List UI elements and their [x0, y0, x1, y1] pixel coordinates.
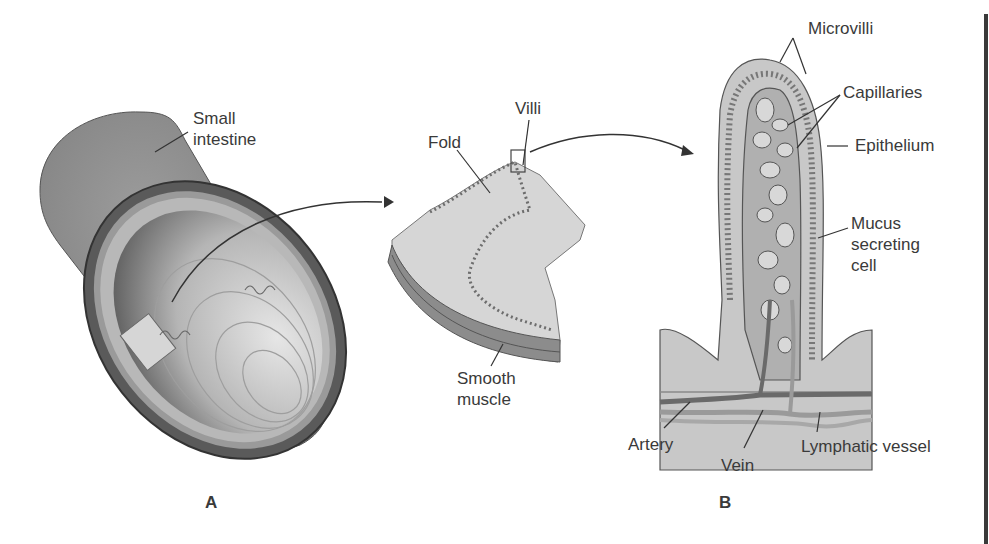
label-lymphatic-vessel: Lymphatic vessel [801, 436, 931, 457]
label-capillaries: Capillaries [843, 82, 922, 103]
label-epithelium: Epithelium [855, 135, 934, 156]
label-mucus-secreting-cell: Mucus secreting cell [851, 213, 920, 276]
label-microvilli: Microvilli [808, 18, 873, 39]
vein-vessel [660, 412, 872, 415]
leader-microvilli-2 [793, 38, 806, 74]
leader-villi [523, 120, 529, 165]
villus-section [660, 59, 872, 470]
page-edge-shadow [984, 14, 988, 544]
label-smooth-muscle: Smooth muscle [457, 368, 516, 410]
panel-label-a: A [205, 493, 217, 513]
label-fold: Fold [428, 132, 461, 153]
label-small-intestine: Small intestine [193, 108, 256, 150]
diagram-canvas [0, 0, 989, 544]
label-villi: Villi [515, 98, 541, 119]
leader-microvilli-1 [780, 38, 793, 62]
small-intestine-tube [30, 112, 401, 511]
panel-label-b: B [719, 493, 731, 513]
arrow-fold-to-villus [530, 134, 685, 152]
label-artery: Artery [628, 434, 673, 455]
fold-section [388, 150, 585, 362]
label-vein: Vein [721, 455, 754, 476]
